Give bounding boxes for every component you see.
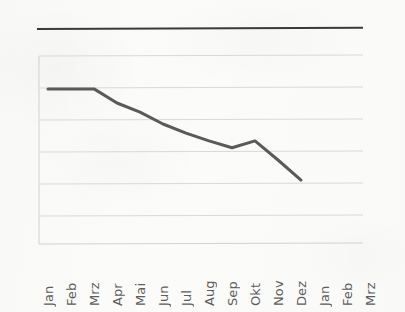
x-tick-label-7: Aug <box>203 246 217 306</box>
x-tick-label-4: Mai <box>134 246 148 306</box>
x-tick-label-11: Dez <box>295 246 309 306</box>
x-tick-label-14: Mrz <box>364 246 378 306</box>
chart-page: Jan Feb Mrz Apr Mai Jun Jul Aug Sep Okt … <box>0 0 405 312</box>
x-tick-label-9: Okt <box>249 246 263 306</box>
x-tick-label-3: Apr <box>111 246 125 306</box>
x-axis-tick-labels: Jan Feb Mrz Apr Mai Jun Jul Aug Sep Okt … <box>0 246 405 312</box>
x-tick-label-12: Jan <box>318 246 332 306</box>
x-tick-label-2: Mrz <box>88 246 102 306</box>
x-tick-label-6: Jul <box>180 246 194 306</box>
x-tick-label-8: Sep <box>226 246 240 306</box>
x-axis-line <box>39 243 363 244</box>
x-tick-label-13: Feb <box>341 246 355 306</box>
gridlines <box>39 55 363 216</box>
x-tick-label-5: Jun <box>157 246 171 306</box>
x-tick-label-10: Nov <box>272 246 286 306</box>
x-tick-label-1: Feb <box>65 246 79 306</box>
data-series-line <box>48 89 301 180</box>
x-tick-label-0: Jan <box>42 246 56 306</box>
